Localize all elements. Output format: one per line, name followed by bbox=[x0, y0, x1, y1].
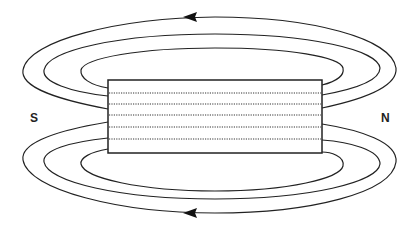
bar-magnet-diagram: S N bbox=[0, 0, 419, 231]
magnet-body bbox=[108, 80, 322, 153]
north-pole-label: N bbox=[381, 111, 390, 125]
south-pole-label: S bbox=[30, 111, 38, 125]
field-line-bottom-inner bbox=[81, 149, 343, 191]
arrow-left-icon bbox=[183, 208, 197, 218]
arrow-left-icon bbox=[183, 12, 197, 22]
bar-magnet bbox=[108, 80, 322, 153]
